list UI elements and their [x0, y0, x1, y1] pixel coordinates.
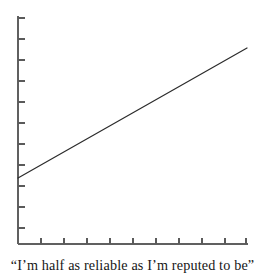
x-axis-ticks	[41, 238, 246, 244]
figure-container: “I’m half as reliable as I’m reputed to …	[0, 0, 265, 278]
line-chart	[0, 0, 265, 252]
data-series-line	[18, 48, 247, 178]
chart-plot-area	[0, 0, 265, 252]
y-axis-ticks	[18, 18, 25, 228]
figure-caption: “I’m half as reliable as I’m reputed to …	[0, 256, 265, 274]
